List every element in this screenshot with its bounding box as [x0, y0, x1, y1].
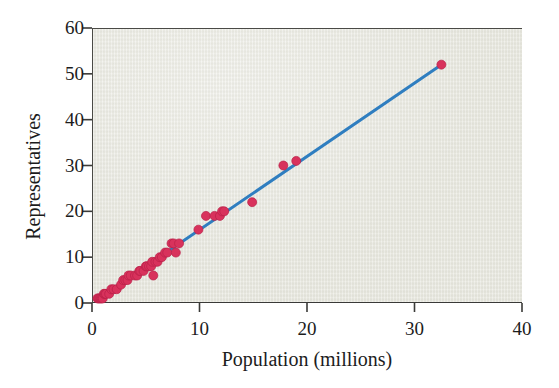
- x-tick-label-group: 010203040: [0, 0, 559, 388]
- x-tick-label: 40: [502, 319, 542, 338]
- y-axis-title: Representatives: [22, 57, 45, 297]
- x-tick-label: 30: [395, 319, 435, 338]
- x-tick-label: 0: [72, 319, 112, 338]
- x-axis-title: Population (millions): [92, 348, 522, 371]
- x-tick-label: 10: [180, 319, 220, 338]
- x-tick-label: 20: [287, 319, 327, 338]
- scatter-plot-figure: 0102030405060 010203040 Representatives …: [0, 0, 559, 388]
